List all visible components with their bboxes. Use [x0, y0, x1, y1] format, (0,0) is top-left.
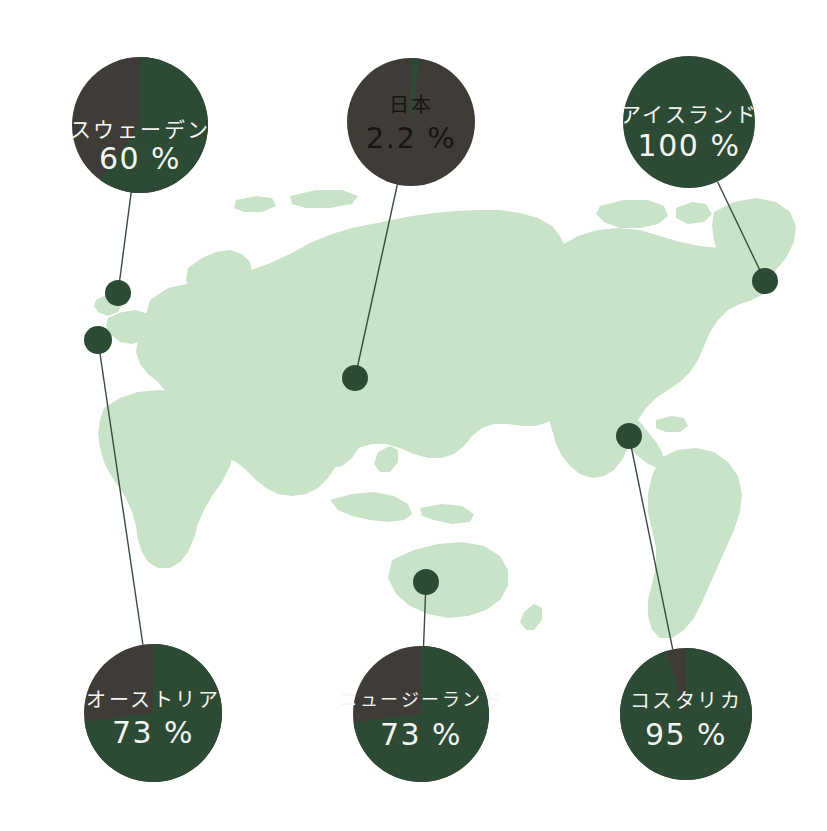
pie-country-label-pie-3: アイスランド	[620, 103, 759, 127]
pie-country-label-pie-4: オーストリア	[86, 688, 220, 712]
pie-chart-pie-2[interactable]: 日本2.2 %	[347, 58, 475, 186]
pie-country-label-pie-1: スウェーデン	[70, 118, 211, 142]
pie-country-label-pie-5: ニュージーランド	[339, 689, 503, 710]
pie-chart-pie-6[interactable]: コスタリカ95 %	[620, 648, 752, 780]
renewable-energy-world-map-infographic: スウェーデン60 %日本2.2 %アイスランド100 %オーストリア73 %ニュ…	[0, 0, 827, 831]
pie-chart-pie-4[interactable]: オーストリア73 %	[84, 644, 222, 782]
pie-value-slice-pie-6	[620, 648, 752, 780]
pie-percentage-value-pie-5: 73 %	[380, 717, 462, 752]
pie-chart-pie-3[interactable]: アイスランド100 %	[620, 56, 759, 188]
pie-percentage-value-pie-6: 95 %	[645, 717, 727, 752]
pie-percentage-value-pie-1: 60 %	[99, 141, 181, 176]
pie-percentage-value-pie-4: 73 %	[112, 715, 194, 750]
pie-percentage-value-pie-3: 100 %	[638, 128, 741, 163]
pie-percentage-value-pie-2: 2.2 %	[366, 121, 456, 155]
pie-country-label-pie-6: コスタリカ	[630, 689, 743, 713]
pie-chart-pie-1[interactable]: スウェーデン60 %	[70, 57, 211, 193]
pie-chart-pie-5[interactable]: ニュージーランド73 %	[339, 646, 503, 782]
pie-chart-layer: スウェーデン60 %日本2.2 %アイスランド100 %オーストリア73 %ニュ…	[0, 0, 827, 831]
pie-country-label-pie-2: 日本	[389, 93, 434, 117]
